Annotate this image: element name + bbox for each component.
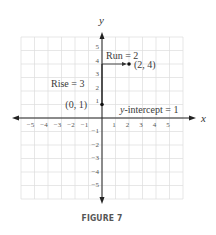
y-axis-up-arrow-icon xyxy=(100,32,105,39)
x-axis-right-arrow-icon xyxy=(189,116,196,121)
rise-annotation: Rise = 3 xyxy=(51,78,84,89)
x-tick-label: −2 xyxy=(67,121,75,129)
x-tick-label: −1 xyxy=(81,121,89,129)
y-tick-label: 2 xyxy=(96,84,100,92)
y-tick-label: −5 xyxy=(92,181,100,189)
run-arrow-icon xyxy=(122,62,127,66)
x-tick-label: −4 xyxy=(40,121,48,129)
y-tick-label: −1 xyxy=(92,127,100,135)
point-label-0-1: (0, 1) xyxy=(65,99,87,111)
y-axis-label: y xyxy=(98,14,104,26)
x-tick-label: −5 xyxy=(27,121,35,129)
run-annotation: Run = 2 xyxy=(106,50,138,61)
data-point xyxy=(127,62,131,66)
data-point xyxy=(100,103,104,107)
y-tick-label: 3 xyxy=(96,70,100,78)
y-axis-down-arrow-icon xyxy=(100,197,105,204)
y-tick-label: −2 xyxy=(92,141,100,149)
x-tick-label: 3 xyxy=(139,121,143,129)
x-tick-label: 2 xyxy=(126,121,130,129)
y-tick-label: −3 xyxy=(92,154,100,162)
x-axis-left-arrow-icon xyxy=(12,116,19,121)
y-intercept-annotation: y-intercept = 1 xyxy=(119,104,178,115)
x-axis-label: x xyxy=(200,112,206,124)
x-tick-label: −3 xyxy=(54,121,62,129)
y-tick-label: 1 xyxy=(96,97,100,105)
y-tick-label: −4 xyxy=(92,168,100,176)
x-tick-label: 5 xyxy=(166,121,170,129)
coordinate-plane: xy −5−4−3−2−11234554321−1−2−3−4−5 (2, 4)… xyxy=(0,0,216,235)
x-tick-label: 1 xyxy=(112,121,116,129)
x-tick-label: 4 xyxy=(153,121,157,129)
y-tick-label: 5 xyxy=(96,43,100,51)
figure-caption: FIGURE 7 xyxy=(15,213,188,223)
annotations: (2, 4)(0, 1)Run = 2Rise = 3y-intercept =… xyxy=(51,50,178,115)
y-tick-label: 4 xyxy=(96,57,100,65)
